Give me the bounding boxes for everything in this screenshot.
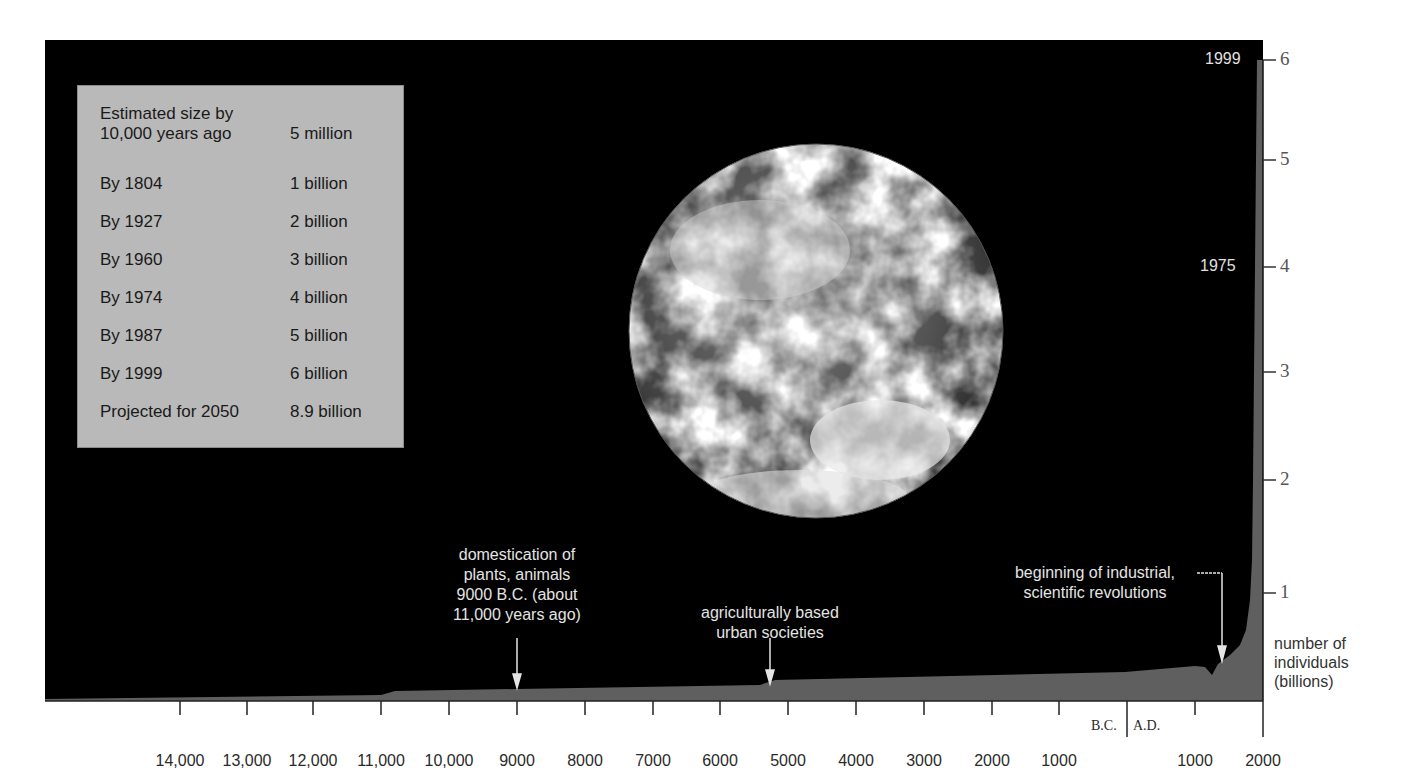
annotation-domestication: domestication of plants, animals 9000 B.… (437, 545, 597, 625)
annotation-urban-societies: agriculturally based urban societies (680, 603, 860, 643)
x-tick-label: 2000 (1245, 752, 1281, 770)
year-marker-1999: 1999 (1205, 50, 1241, 68)
x-tick-label: 12,000 (289, 752, 338, 770)
x-tick-label: 9000 (499, 752, 535, 770)
x-tick-label: 6000 (702, 752, 738, 770)
x-tick-label: 10,000 (425, 752, 474, 770)
row-value: 5 million (290, 124, 352, 144)
row-label: Estimated size by 10,000 years ago (100, 104, 233, 144)
row-value: 4 billion (290, 288, 348, 308)
row-value: 1 billion (290, 174, 348, 194)
y-tick-label: 3 (1280, 360, 1290, 382)
era-label-ad: A.D. (1133, 718, 1160, 734)
x-tick-label: 1000 (1177, 752, 1213, 770)
y-tick-label: 1 (1280, 581, 1290, 603)
row-value: 5 billion (290, 326, 348, 346)
row-value: 2 billion (290, 212, 348, 232)
y-axis-label: number of individuals (billions) (1274, 634, 1410, 691)
year-marker-1975: 1975 (1200, 257, 1236, 275)
annotation-industrial-revolution: beginning of industrial, scientific revo… (990, 563, 1200, 603)
x-tick-label: 2000 (974, 752, 1010, 770)
y-tick-label: 2 (1280, 468, 1290, 490)
y-axis-ticks (1263, 60, 1276, 593)
y-tick-label: 4 (1280, 255, 1290, 277)
row-label: By 1960 (100, 250, 162, 270)
x-tick-label: 3000 (906, 752, 942, 770)
x-tick-label: 11,000 (357, 752, 405, 770)
x-tick-label: 7000 (635, 752, 671, 770)
row-label: By 1974 (100, 288, 162, 308)
x-tick-label: 1000 (1041, 752, 1077, 770)
row-label: Projected for 2050 (100, 402, 239, 422)
row-label: By 1927 (100, 212, 162, 232)
y-tick-label: 6 (1280, 48, 1290, 70)
era-label-bc: B.C. (1091, 718, 1117, 734)
y-tick-label: 5 (1280, 148, 1290, 170)
row-label: By 1804 (100, 174, 162, 194)
x-tick-label: 13,000 (223, 752, 272, 770)
row-label: By 1987 (100, 326, 162, 346)
row-value: 3 billion (290, 250, 348, 270)
row-label: By 1999 (100, 364, 162, 384)
row-value: 8.9 billion (290, 402, 362, 422)
x-tick-label: 4000 (838, 752, 874, 770)
x-tick-label: 8000 (567, 752, 603, 770)
x-tick-label: 5000 (770, 752, 806, 770)
population-milestones-table: Estimated size by 10,000 years ago 5 mil… (77, 85, 404, 448)
row-value: 6 billion (290, 364, 348, 384)
x-tick-label: 14,000 (156, 752, 205, 770)
